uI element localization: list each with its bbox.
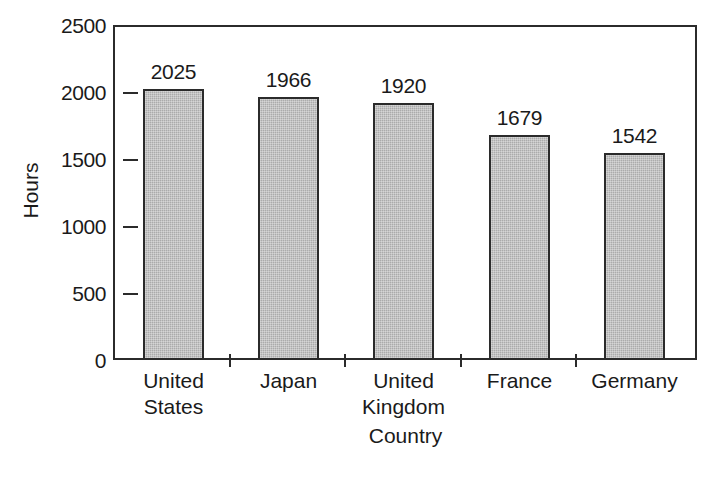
y-tick-mark-1500: [123, 159, 138, 161]
x-category-label-united-states: United States: [113, 368, 234, 420]
bar-japan: [258, 97, 319, 360]
x-tick-mark-2: [344, 354, 346, 367]
x-axis-title-wrapper: Country: [0, 425, 717, 447]
y-tick-mark-500: [123, 293, 138, 295]
bar-united-states: [143, 89, 204, 360]
y-axis: 2500 2000 1500 1000 500 0: [18, 0, 106, 480]
bar-value-france: 1679: [479, 107, 560, 128]
x-tick-mark-4: [575, 354, 577, 367]
bar-value-united-kingdom: 1920: [363, 75, 444, 96]
x-category-label-germany: Germany: [574, 368, 695, 394]
x-tick-mark-1: [229, 354, 231, 367]
y-tick-label-2500: 2500: [61, 15, 106, 36]
x-tick-mark-3: [460, 354, 462, 367]
y-tick-label-500: 500: [72, 283, 106, 304]
bar-france: [489, 135, 550, 360]
y-tick-label-0: 0: [95, 350, 106, 371]
x-category-label-united-kingdom: United Kingdom: [343, 368, 464, 420]
bar-value-japan: 1966: [248, 69, 329, 90]
x-axis-title: Country: [369, 424, 443, 447]
bar-value-germany: 1542: [594, 125, 675, 146]
x-category-label-japan: Japan: [228, 368, 349, 394]
bar-chart: 2500 2000 1500 1000 500 0 Hours 2025 196…: [0, 0, 717, 480]
x-category-label-france: France: [459, 368, 580, 394]
y-tick-mark-1000: [123, 226, 138, 228]
y-tick-mark-2000: [123, 92, 138, 94]
y-tick-label-1000: 1000: [61, 216, 106, 237]
bar-value-united-states: 2025: [133, 61, 214, 82]
y-tick-label-2000: 2000: [61, 82, 106, 103]
bar-united-kingdom: [373, 103, 434, 360]
y-axis-title: Hours: [20, 145, 41, 237]
bar-germany: [604, 153, 665, 360]
y-tick-label-1500: 1500: [61, 149, 106, 170]
